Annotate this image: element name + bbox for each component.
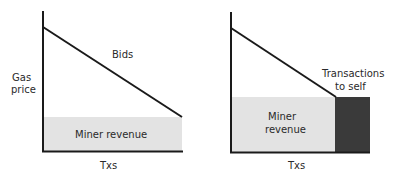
y-axis-label-line1: Gas bbox=[12, 72, 31, 83]
transactions-to-self-label-line1: Transactions bbox=[321, 68, 384, 79]
y-axis-label-line2: price bbox=[11, 84, 36, 95]
right-chart: Miner revenue Transactions to self Txs bbox=[230, 12, 384, 171]
left-chart: Bids Miner revenue Gas price Txs bbox=[11, 11, 183, 171]
bid-curve bbox=[43, 27, 182, 117]
bids-label: Bids bbox=[112, 49, 133, 60]
miner-revenue-label-line2: revenue bbox=[265, 124, 306, 135]
bid-curve bbox=[231, 28, 336, 97]
transactions-to-self-area bbox=[335, 97, 370, 152]
x-axis-label: Txs bbox=[287, 160, 305, 171]
miner-revenue-label: Miner revenue bbox=[75, 129, 147, 140]
gas-price-diagram: Bids Miner revenue Gas price Txs Miner r… bbox=[0, 0, 394, 182]
miner-revenue-label-line1: Miner bbox=[268, 111, 297, 122]
x-axis-label: Txs bbox=[99, 160, 117, 171]
transactions-to-self-label-line2: to self bbox=[335, 81, 366, 92]
